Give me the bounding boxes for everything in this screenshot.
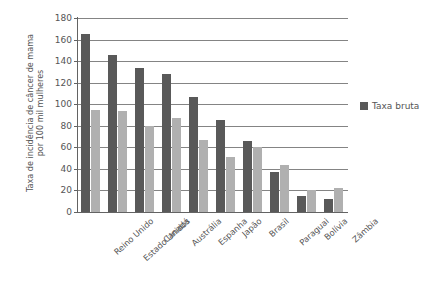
legend-swatch-taxa-bruta	[360, 102, 368, 110]
x-category-label: Estado Unidos	[141, 216, 192, 263]
chart-legend: Taxa bruta	[360, 101, 419, 111]
bar	[307, 190, 316, 212]
bar-chart-figure: Taxa de incidência de câncer de mama por…	[0, 0, 445, 290]
bar	[243, 141, 252, 212]
bar	[162, 74, 171, 212]
bar-group	[159, 18, 186, 212]
bar	[135, 68, 144, 212]
y-tick-label: 60	[61, 142, 72, 152]
bar	[253, 147, 262, 212]
bar	[280, 165, 289, 212]
bar-group	[78, 18, 105, 212]
bar	[270, 172, 279, 212]
bar-group	[267, 18, 294, 212]
y-tick-label: 140	[55, 56, 72, 66]
bar	[297, 196, 306, 212]
bar-group	[240, 18, 267, 212]
bar	[172, 118, 181, 212]
x-axis-line	[77, 212, 348, 213]
y-tick-label: 40	[61, 164, 72, 174]
bar	[226, 157, 235, 212]
x-category-label: Zâmbia	[350, 216, 380, 245]
bar	[334, 188, 343, 212]
y-axis-title-line-2: por 100 mil mulheres	[36, 70, 46, 157]
x-category-label: Austrália	[189, 216, 223, 248]
bar-group	[132, 18, 159, 212]
y-tick-label: 100	[55, 99, 72, 109]
x-category-label: Reino Unido	[111, 216, 155, 257]
y-tick-label: 20	[61, 185, 72, 195]
y-tick-mark	[74, 212, 78, 213]
x-category-label: Canadá	[161, 216, 191, 245]
bar	[81, 34, 90, 212]
bar-group	[186, 18, 213, 212]
x-category-label: Bolívia	[322, 216, 349, 242]
bar	[189, 97, 198, 212]
y-tick-label: 120	[55, 78, 72, 88]
x-category-label: Japão	[239, 216, 263, 239]
bar	[108, 55, 117, 212]
y-tick-label: 180	[55, 13, 72, 23]
bar	[324, 199, 333, 212]
bars-layer	[78, 18, 348, 212]
bar-group	[294, 18, 321, 212]
y-tick-label: 0	[66, 207, 72, 217]
bar-group	[213, 18, 240, 212]
plot-area: 020406080100120140160180	[78, 18, 348, 212]
x-category-label: Espanha	[216, 216, 249, 247]
legend-label-taxa-bruta: Taxa bruta	[372, 101, 419, 111]
bar	[216, 120, 225, 212]
bar	[118, 111, 127, 212]
bar-group	[105, 18, 132, 212]
bar	[199, 140, 208, 212]
y-tick-label: 80	[61, 121, 72, 131]
bar	[145, 126, 154, 212]
bar-group	[321, 18, 348, 212]
x-category-label: Paraguai	[297, 216, 331, 248]
y-axis-title-line-1: Taxa de incidência de câncer de mama	[26, 34, 36, 192]
y-axis-title: Taxa de incidência de câncer de mama por…	[19, 13, 53, 213]
x-category-label: Brasil	[266, 216, 290, 239]
bar	[91, 110, 100, 212]
y-tick-label: 160	[55, 35, 72, 45]
